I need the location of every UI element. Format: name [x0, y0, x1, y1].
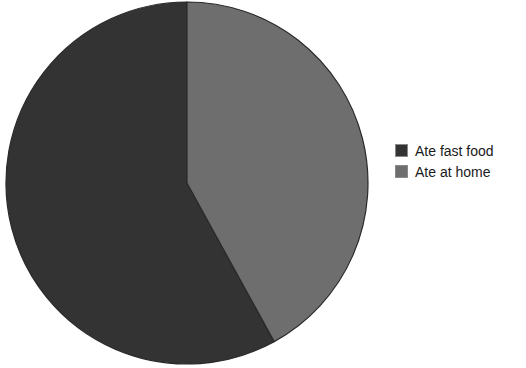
legend-item-ate-at-home[interactable]: Ate at home	[395, 161, 526, 182]
pie-plot-area	[0, 0, 380, 368]
legend-swatch-icon	[395, 144, 408, 157]
chart-legend: Ate fast food Ate at home	[395, 140, 526, 182]
legend-item-ate-fast-food[interactable]: Ate fast food	[395, 140, 526, 161]
legend-swatch-icon	[395, 165, 408, 178]
pie-chart: Ate fast food Ate at home	[0, 0, 526, 368]
legend-item-label: Ate at home	[415, 164, 491, 180]
pie-svg	[0, 0, 380, 368]
legend-item-label: Ate fast food	[415, 143, 494, 159]
